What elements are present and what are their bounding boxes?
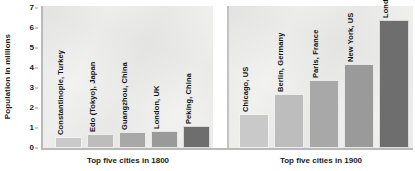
y-axis-line	[41, 6, 43, 150]
y-axis-title-text: Population in millions	[4, 33, 13, 118]
y-tick-mark-3	[35, 88, 38, 89]
y-tick-label-6: 6	[30, 24, 34, 32]
bar-label-1800-1: Edo (Tokyo), Japan	[88, 62, 97, 132]
y-tick-label-7: 7	[30, 4, 34, 12]
y-tick-label-3: 3	[30, 84, 34, 92]
caption-1900: Top five cities in 1900	[229, 156, 413, 165]
bar-1900-0: Chicago, US	[239, 114, 269, 148]
y-tick-label-0: 0	[30, 144, 34, 152]
bar-1800-3: London, UK	[151, 131, 178, 148]
bar-label-1900-1: Berlin, Germany	[276, 33, 285, 92]
y-tick-label-1: 1	[30, 124, 34, 132]
y-tick-label-4: 4	[30, 64, 34, 72]
x-axis-line	[41, 148, 413, 150]
bar-1900-3: New York, US	[344, 64, 374, 148]
y-axis-ticks: 76543210	[16, 0, 38, 152]
bar-1900-4: London, UK	[379, 20, 409, 148]
plot-area: Constantinople, TurkeyEdo (Tokyo), Japan…	[41, 6, 413, 150]
chart-figure: Population in millions 76543210 Constant…	[0, 0, 415, 171]
y-tick-mark-5	[35, 48, 38, 49]
y-tick-mark-1	[35, 128, 38, 129]
y-tick-label-5: 5	[30, 44, 34, 52]
panel-divider	[227, 6, 229, 150]
y-tick-mark-6	[35, 28, 38, 29]
y-tick-label-2: 2	[30, 104, 34, 112]
bar-1900-1: Berlin, Germany	[274, 94, 304, 148]
y-tick-mark-2	[35, 108, 38, 109]
bar-label-1800-2: Guangzhou, China	[120, 62, 129, 130]
bar-1800-1: Edo (Tokyo), Japan	[87, 134, 114, 148]
y-tick-mark-4	[35, 68, 38, 69]
bar-label-1800-4: Peking, China	[184, 73, 193, 124]
y-tick-mark-0	[35, 148, 38, 149]
bar-label-1900-0: Chicago, US	[241, 67, 250, 112]
bar-1900-2: Paris, France	[309, 80, 339, 148]
bar-1800-2: Guangzhou, China	[119, 132, 146, 148]
bar-label-1900-4: London, UK	[381, 0, 390, 18]
caption-1800: Top five cities in 1800	[43, 156, 213, 165]
bar-label-1800-0: Constantinople, Turkey	[56, 50, 65, 135]
bar-1800-0: Constantinople, Turkey	[55, 137, 82, 148]
y-tick-mark-7	[35, 8, 38, 9]
bar-1800-4: Peking, China	[183, 126, 210, 148]
y-axis-title: Population in millions	[0, 0, 16, 152]
bar-label-1900-3: New York, US	[346, 13, 355, 62]
bar-label-1900-2: Paris, France	[311, 30, 320, 78]
bar-label-1800-3: London, UK	[152, 85, 161, 129]
